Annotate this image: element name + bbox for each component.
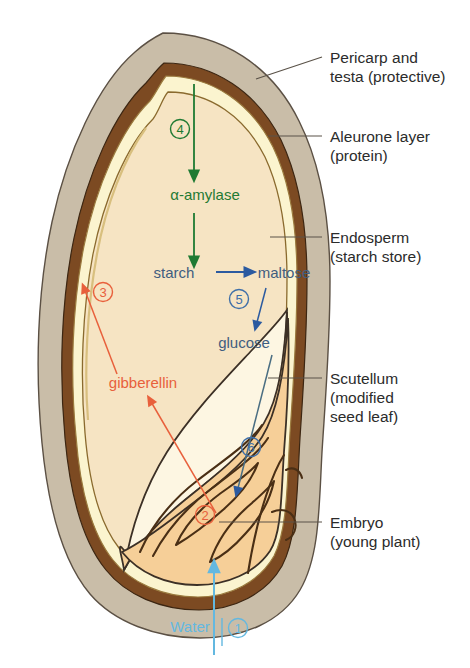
label-maltose: maltose <box>258 264 311 281</box>
seed-germination-diagram: α-amylase starch maltose glucose gibbere… <box>0 0 470 668</box>
step-5-label: 5 <box>235 292 242 307</box>
callout-pericarp-line-2: testa (protective) <box>330 68 445 85</box>
label-glucose: glucose <box>218 334 270 351</box>
step-6-label: 6 <box>247 440 254 455</box>
callout-pericarp-line-1: Pericarp and <box>330 49 418 66</box>
callout-scutellum-line-1: Scutellum <box>330 370 398 387</box>
diagram-canvas: α-amylase starch maltose glucose gibbere… <box>0 0 470 668</box>
callout-endosperm: Endosperm (starch store) <box>330 229 421 265</box>
callout-aleurone-line-2: (protein) <box>330 147 388 164</box>
label-gibberellin: gibberellin <box>109 374 177 391</box>
callout-scutellum-line-3: seed leaf) <box>330 408 398 425</box>
label-starch: starch <box>154 264 195 281</box>
step-2-label: 2 <box>201 508 208 523</box>
callout-pericarp: Pericarp and testa (protective) <box>330 49 445 85</box>
callout-labels: Pericarp and testa (protective) Aleurone… <box>330 49 445 550</box>
label-alpha-amylase: α-amylase <box>170 186 240 203</box>
callout-aleurone: Aleurone layer (protein) <box>330 128 430 164</box>
step-1-label: 1 <box>234 621 241 636</box>
callout-embryo-line-1: Embryo <box>330 514 383 531</box>
seed-cross-section <box>38 33 330 638</box>
callout-scutellum-line-2: (modified <box>330 389 394 406</box>
callout-endosperm-line-1: Endosperm <box>330 229 409 246</box>
label-water: Water <box>170 618 209 635</box>
callout-scutellum: Scutellum (modified seed leaf) <box>330 370 398 425</box>
callout-endosperm-line-2: (starch store) <box>330 248 421 265</box>
callout-aleurone-line-1: Aleurone layer <box>330 128 430 145</box>
callout-embryo: Embryo (young plant) <box>330 514 420 550</box>
step-3-label: 3 <box>99 285 106 300</box>
step-4-label: 4 <box>176 122 183 137</box>
callout-embryo-line-2: (young plant) <box>330 533 420 550</box>
leader-pericarp <box>256 57 322 79</box>
